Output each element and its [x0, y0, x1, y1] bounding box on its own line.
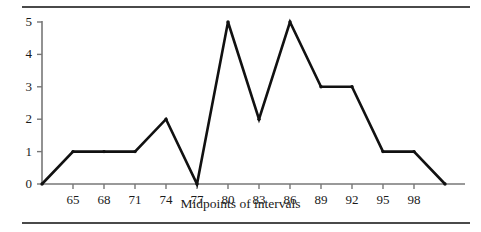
y-axis-tick-label: 4	[18, 47, 32, 60]
data-point-marker	[226, 20, 229, 23]
data-point-marker	[443, 182, 446, 185]
data-point-marker	[319, 85, 322, 88]
data-point-marker	[40, 182, 43, 185]
data-point-marker	[164, 118, 167, 121]
y-axis-tick-label: 3	[18, 80, 32, 93]
y-axis-tick-label: 1	[18, 145, 32, 158]
y-axis-tick-label: 2	[18, 112, 32, 125]
data-point-marker	[350, 85, 353, 88]
data-point-marker	[102, 150, 105, 153]
data-point-marker	[288, 20, 291, 23]
data-point-markers-group	[40, 20, 446, 185]
y-axis-tick-label: 5	[18, 15, 32, 28]
frequency-polygon-figure: 012345 656871747780838689929598 Midpoint…	[0, 0, 481, 232]
frequency-polygon-line	[42, 22, 445, 184]
data-point-marker	[257, 118, 260, 121]
data-point-marker	[381, 150, 384, 153]
tick-marks-group	[37, 22, 414, 189]
y-axis-tick-label: 0	[18, 177, 32, 190]
data-polyline-group	[42, 22, 445, 184]
data-point-marker	[71, 150, 74, 153]
data-point-marker	[412, 150, 415, 153]
x-axis-title: Midpoints of intervals	[0, 196, 481, 212]
data-point-marker	[195, 182, 198, 185]
data-point-marker	[133, 150, 136, 153]
